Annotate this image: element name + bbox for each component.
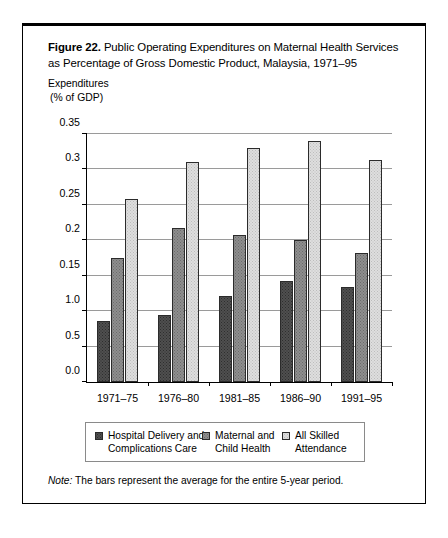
bar[interactable] bbox=[97, 321, 110, 382]
figure-title: Figure 22. Public Operating Expenditures… bbox=[48, 40, 408, 71]
legend: Hospital Delivery and Complications Care… bbox=[85, 422, 365, 462]
bar[interactable] bbox=[308, 141, 321, 382]
bar[interactable] bbox=[369, 160, 382, 382]
bar[interactable] bbox=[111, 258, 124, 382]
y-axis-tick-label: 0.2 bbox=[65, 222, 80, 234]
bar[interactable] bbox=[219, 296, 232, 382]
x-axis-tick-mark bbox=[392, 382, 393, 386]
bar[interactable] bbox=[125, 199, 138, 382]
note-text: The bars represent the average for the e… bbox=[72, 475, 343, 486]
bar[interactable] bbox=[172, 228, 185, 382]
x-axis-category-label: 1981–85 bbox=[219, 392, 260, 404]
figure-title-line2: as Percentage of Gross Domestic Product,… bbox=[48, 57, 357, 69]
legend-label: All Skilled Attendance bbox=[295, 430, 347, 455]
plot-area: 0.00.51.00.150.20.250.30.35 1971–751976–… bbox=[86, 134, 392, 383]
legend-item[interactable]: Hospital Delivery and Complications Care bbox=[95, 430, 204, 455]
x-axis-category-label: 1986–90 bbox=[280, 392, 321, 404]
bar[interactable] bbox=[294, 240, 307, 382]
bar-group bbox=[97, 134, 138, 382]
y-axis-tick-label: 0.15 bbox=[59, 258, 80, 270]
y-axis-caption-line1: Expenditures bbox=[48, 77, 109, 91]
x-axis-tick-mark bbox=[270, 382, 271, 386]
y-axis-tick-label: 0.5 bbox=[65, 329, 80, 341]
legend-swatch-icon bbox=[95, 432, 103, 440]
y-axis-tick-label: 0.25 bbox=[59, 187, 80, 199]
bar[interactable] bbox=[280, 281, 293, 382]
bar-group bbox=[280, 134, 321, 382]
x-axis-tick-mark bbox=[209, 382, 210, 386]
bar-group bbox=[219, 134, 260, 382]
x-axis-category-label: 1976–80 bbox=[158, 392, 199, 404]
figure-frame: Figure 22. Public Operating Expenditures… bbox=[22, 23, 426, 504]
figure-number: Figure 22. bbox=[48, 41, 101, 53]
bar[interactable] bbox=[355, 253, 368, 382]
bar[interactable] bbox=[158, 315, 171, 382]
legend-item[interactable]: Maternal and Child Health bbox=[202, 430, 274, 455]
legend-swatch-icon bbox=[282, 432, 290, 440]
x-axis-tick-mark bbox=[331, 382, 332, 386]
legend-item[interactable]: All Skilled Attendance bbox=[282, 430, 347, 455]
x-axis-tick-mark bbox=[148, 382, 149, 386]
bar[interactable] bbox=[341, 287, 354, 382]
figure-title-line1: Public Operating Expenditures on Materna… bbox=[101, 41, 398, 53]
legend-swatch-icon bbox=[202, 432, 210, 440]
note-label: Note: bbox=[48, 475, 72, 486]
bar[interactable] bbox=[247, 148, 260, 382]
y-axis-caption: Expenditures (% of GDP) bbox=[48, 77, 109, 104]
bar-group bbox=[341, 134, 382, 382]
figure-note: Note: The bars represent the average for… bbox=[48, 475, 343, 486]
legend-label: Hospital Delivery and Complications Care bbox=[108, 430, 204, 455]
y-axis-tick-label: 1.0 bbox=[65, 293, 80, 305]
x-axis-category-label: 1971–75 bbox=[97, 392, 138, 404]
y-axis-caption-line2: (% of GDP) bbox=[48, 91, 109, 105]
bar[interactable] bbox=[186, 162, 199, 382]
y-axis-tick-label: 0.0 bbox=[65, 364, 80, 376]
legend-label: Maternal and Child Health bbox=[215, 430, 274, 455]
x-axis-category-label: 1991–95 bbox=[341, 392, 382, 404]
bar-group bbox=[158, 134, 199, 382]
y-axis-tick-label: 0.3 bbox=[65, 151, 80, 163]
bars-layer bbox=[87, 134, 392, 382]
y-axis-tick-label: 0.35 bbox=[59, 116, 80, 128]
bar[interactable] bbox=[233, 235, 246, 382]
